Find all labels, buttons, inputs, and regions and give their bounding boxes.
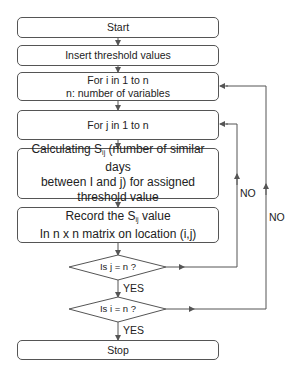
record-line-1: Record the Sij value (65, 209, 170, 227)
yes-label-i: YES (123, 324, 144, 336)
calculate-sij-step: Calculating Sij (number of similar days … (17, 148, 219, 199)
loop-i-note: n: number of variables (66, 87, 170, 100)
yes-label-j: YES (123, 282, 144, 294)
stop-label: Stop (107, 344, 129, 357)
loop-j-label: For j in 1 to n (87, 119, 148, 132)
start-terminal: Start (17, 17, 219, 38)
no-label-j: NO (240, 187, 256, 199)
loop-i-step: For i in 1 to n n: number of variables (17, 72, 219, 101)
insert-threshold-label: Insert threshold values (65, 49, 171, 62)
record-sij-step: Record the Sij value In n x n matrix on … (17, 207, 219, 243)
calculate-line-1: Calculating Sij (number of similar days (18, 142, 218, 175)
start-label: Start (107, 21, 129, 34)
calculate-line-3: threshold value (77, 190, 158, 205)
decision-j-label: Is j = n ? (69, 261, 167, 272)
loop-i-label: For i in 1 to n (87, 74, 148, 87)
insert-threshold-step: Insert threshold values (17, 45, 219, 66)
record-line-2: In n x n matrix on location (i,j) (40, 227, 197, 242)
decision-i-label: Is i = n ? (69, 303, 167, 314)
no-label-i: NO (269, 211, 285, 223)
loop-j-step: For j in 1 to n (17, 110, 219, 140)
stop-terminal: Stop (17, 340, 219, 360)
calculate-line-2: between I and j) for assigned (41, 175, 195, 190)
